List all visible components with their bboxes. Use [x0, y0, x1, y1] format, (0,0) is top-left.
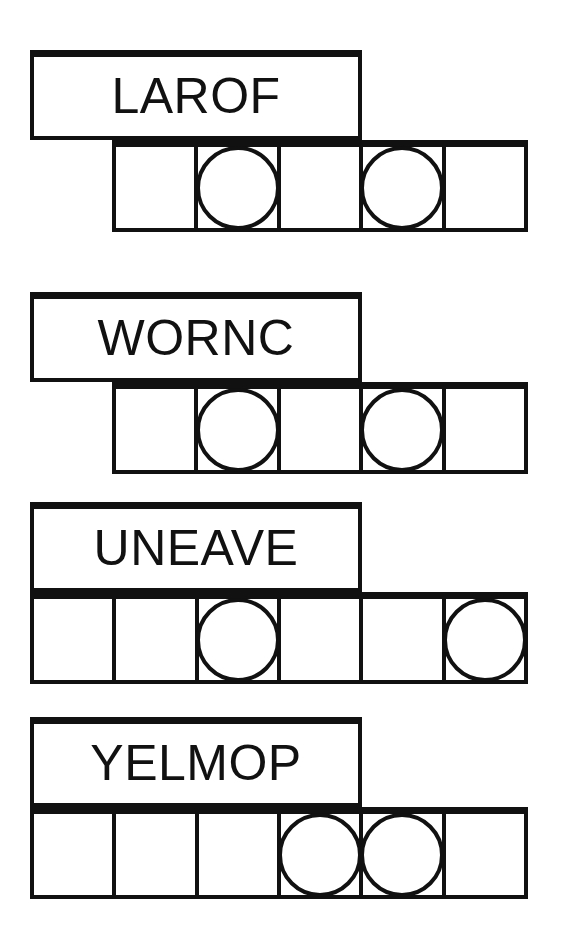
- answer-cell[interactable]: [363, 599, 445, 680]
- answer-cell[interactable]: [281, 599, 363, 680]
- answer-cell[interactable]: [363, 814, 445, 895]
- puzzle-sheet: LAROF WORNC UNEAVE YELMOP: [0, 0, 570, 929]
- answer-cell[interactable]: [198, 147, 280, 228]
- answer-cell[interactable]: [199, 599, 281, 680]
- answer-cell[interactable]: [34, 599, 116, 680]
- scrambled-word-box: YELMOP: [30, 717, 362, 807]
- answer-cell[interactable]: [116, 599, 198, 680]
- answer-cell[interactable]: [198, 389, 280, 470]
- answer-cell[interactable]: [446, 389, 524, 470]
- circle-highlight-icon: [360, 146, 444, 230]
- scrambled-word-text: UNEAVE: [94, 523, 299, 573]
- scrambled-word-text: WORNC: [98, 313, 295, 363]
- scrambled-word-text: LAROF: [111, 71, 280, 121]
- circle-highlight-icon: [196, 146, 280, 230]
- answer-cell[interactable]: [446, 599, 524, 680]
- answer-cell[interactable]: [281, 389, 363, 470]
- circle-highlight-icon: [443, 598, 527, 682]
- answer-cell[interactable]: [446, 814, 524, 895]
- answer-row: [30, 592, 528, 684]
- scrambled-word-box: WORNC: [30, 292, 362, 382]
- circle-highlight-icon: [360, 388, 444, 472]
- scrambled-word-text: YELMOP: [90, 738, 301, 788]
- answer-row: [112, 140, 528, 232]
- scrambled-word-box: UNEAVE: [30, 502, 362, 592]
- answer-cell[interactable]: [116, 814, 198, 895]
- answer-cell[interactable]: [34, 814, 116, 895]
- answer-cell[interactable]: [116, 147, 198, 228]
- answer-cell[interactable]: [363, 389, 445, 470]
- answer-cell[interactable]: [281, 147, 363, 228]
- circle-highlight-icon: [360, 813, 444, 897]
- answer-cell[interactable]: [199, 814, 281, 895]
- circle-highlight-icon: [196, 598, 280, 682]
- answer-row: [30, 807, 528, 899]
- answer-cell[interactable]: [446, 147, 524, 228]
- scrambled-word-box: LAROF: [30, 50, 362, 140]
- answer-cell[interactable]: [281, 814, 363, 895]
- circle-highlight-icon: [278, 813, 362, 897]
- answer-cell[interactable]: [116, 389, 198, 470]
- answer-cell[interactable]: [363, 147, 445, 228]
- answer-row: [112, 382, 528, 474]
- circle-highlight-icon: [196, 388, 280, 472]
